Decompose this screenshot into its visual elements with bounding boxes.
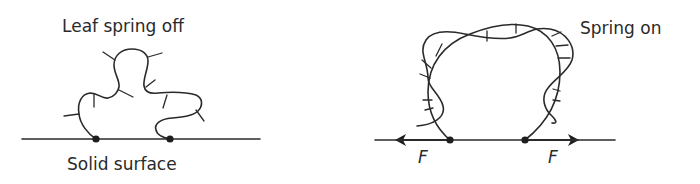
force-label-left: F bbox=[418, 147, 428, 167]
left-panel-leaf-spring-off: Leaf spring off Solid surface bbox=[22, 16, 260, 174]
spring-on-title: Spring on bbox=[580, 18, 661, 38]
anchor-point-left bbox=[446, 136, 453, 143]
leaf-spring-relaxed-curve bbox=[79, 49, 202, 139]
spring-arch-curve bbox=[428, 24, 560, 140]
anchor-point-right bbox=[521, 136, 528, 143]
leaf-spring-diagram: Leaf spring off Solid surface Spring on bbox=[0, 0, 700, 184]
right-panel-spring-on: Spring on F F bbox=[375, 18, 661, 167]
solid-surface-label: Solid surface bbox=[67, 154, 177, 174]
anchor-point-right bbox=[166, 135, 173, 142]
leaf-spring-ticks bbox=[64, 52, 204, 121]
leaf-spring-off-title: Leaf spring off bbox=[62, 16, 185, 36]
anchor-point-left bbox=[92, 135, 99, 142]
force-label-right: F bbox=[548, 147, 558, 167]
